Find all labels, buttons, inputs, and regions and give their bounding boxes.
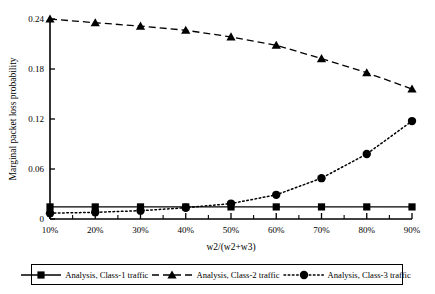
x-tick-label: 20% bbox=[87, 225, 104, 235]
legend-sample-circle-icon bbox=[283, 269, 325, 281]
legend-label: Analysis, Class-1 traffic bbox=[62, 270, 151, 280]
legend-entry-1[interactable]: Analysis, Class-1 traffic bbox=[20, 269, 151, 281]
series-line-3 bbox=[50, 121, 412, 213]
x-tick-label: 30% bbox=[132, 225, 149, 235]
data-point-circle bbox=[227, 199, 235, 207]
data-point-circle bbox=[182, 204, 190, 212]
x-tick-label: 80% bbox=[359, 225, 376, 235]
data-point-square bbox=[318, 203, 325, 210]
data-point-circle bbox=[363, 150, 371, 158]
series-3 bbox=[46, 117, 416, 217]
legend-marker-square bbox=[38, 271, 45, 278]
x-axis-title: w2/(w2+w3) bbox=[206, 242, 255, 253]
legend-marker-circle bbox=[299, 270, 307, 278]
data-point-circle bbox=[408, 117, 416, 125]
data-point-circle bbox=[317, 174, 325, 182]
y-tick-label: 0.18 bbox=[28, 64, 44, 74]
chart-legend: Analysis, Class-1 trafficAnalysis, Class… bbox=[31, 264, 403, 285]
data-point-triangle bbox=[91, 18, 100, 26]
x-tick-label: 10% bbox=[42, 225, 59, 235]
y-axis-title: Marginal packet loss probability bbox=[8, 57, 18, 180]
legend-sample-triangle-icon bbox=[151, 269, 193, 281]
legend-entry-2[interactable]: Analysis, Class-2 traffic bbox=[151, 269, 282, 281]
y-tick-label: 0.12 bbox=[28, 114, 44, 124]
data-point-square bbox=[273, 203, 280, 210]
axis-lines bbox=[50, 19, 412, 219]
legend-entry-3[interactable]: Analysis, Class-3 traffic bbox=[283, 269, 414, 281]
series-2 bbox=[45, 14, 416, 92]
x-axis-ticks bbox=[50, 213, 412, 219]
data-point-circle bbox=[272, 191, 280, 199]
x-tick-label: 60% bbox=[268, 225, 285, 235]
plot-area: 00.060.120.180.24 10%20%30%40%50%60%70%8… bbox=[0, 0, 435, 258]
chart-figure: 00.060.120.180.24 10%20%30%40%50%60%70%8… bbox=[0, 0, 435, 294]
data-point-triangle bbox=[136, 21, 145, 29]
y-axis-tick-labels: 00.060.120.180.24 bbox=[28, 14, 44, 224]
y-tick-label: 0 bbox=[40, 214, 45, 224]
x-axis-tick-labels: 10%20%30%40%50%60%70%80%90% bbox=[42, 225, 421, 235]
x-tick-label: 70% bbox=[313, 225, 330, 235]
data-point-circle bbox=[46, 209, 54, 217]
legend-label: Analysis, Class-2 traffic bbox=[193, 270, 282, 280]
legend-sample-square-icon bbox=[20, 269, 62, 281]
data-point-circle bbox=[136, 206, 144, 214]
x-tick-label: 40% bbox=[178, 225, 195, 235]
x-tick-label: 50% bbox=[223, 225, 240, 235]
chart-svg: 00.060.120.180.24 10%20%30%40%50%60%70%8… bbox=[0, 0, 435, 258]
x-tick-label: 90% bbox=[404, 225, 421, 235]
y-tick-label: 0.06 bbox=[28, 164, 44, 174]
y-tick-label: 0.24 bbox=[28, 14, 44, 24]
series-line-2 bbox=[50, 19, 412, 89]
data-point-circle bbox=[91, 208, 99, 216]
legend-label: Analysis, Class-3 traffic bbox=[325, 270, 414, 280]
data-point-triangle bbox=[317, 54, 326, 62]
data-point-square bbox=[408, 203, 415, 210]
data-series-layer bbox=[45, 14, 416, 217]
data-point-square bbox=[363, 203, 370, 210]
